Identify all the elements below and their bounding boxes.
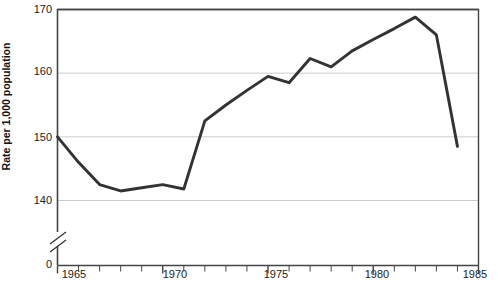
line-chart: Rate per 1,000 population 170 160 150 14… [0, 0, 498, 297]
x-axis-minor-ticks [58, 266, 479, 274]
data-series-line [58, 17, 458, 191]
gridlines [58, 10, 479, 201]
plot-area [0, 0, 498, 297]
